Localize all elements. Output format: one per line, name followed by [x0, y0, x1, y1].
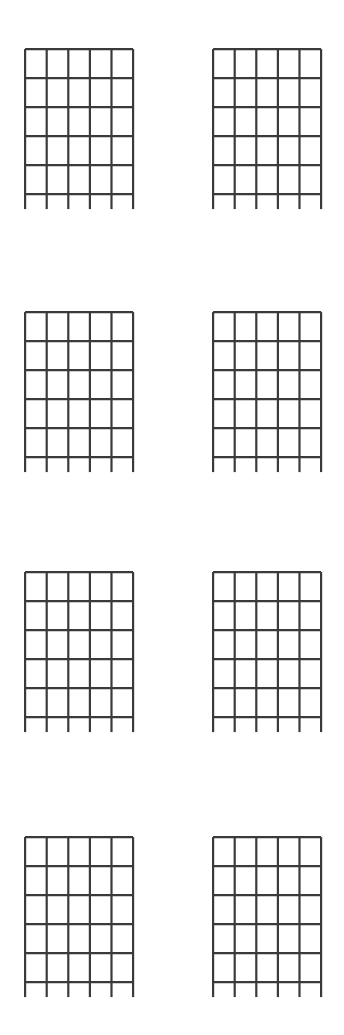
chord-grid-svg [212, 571, 322, 733]
chord-grid-svg [24, 311, 134, 473]
chord-diagram[interactable] [24, 48, 132, 208]
chord-diagram[interactable] [24, 571, 132, 731]
chord-grid-svg [24, 836, 134, 998]
chord-grid-svg [24, 571, 134, 733]
chord-sheet-page [0, 0, 344, 1035]
chord-diagram[interactable] [212, 311, 320, 471]
chord-diagram[interactable] [24, 311, 132, 471]
chord-diagram[interactable] [212, 48, 320, 208]
chord-grid-svg [212, 311, 322, 473]
chord-diagram[interactable] [212, 836, 320, 996]
chord-grid-svg [212, 48, 322, 210]
chord-diagram[interactable] [212, 571, 320, 731]
chord-grid-svg [24, 48, 134, 210]
chord-diagram[interactable] [24, 836, 132, 996]
chord-grid-svg [212, 836, 322, 998]
